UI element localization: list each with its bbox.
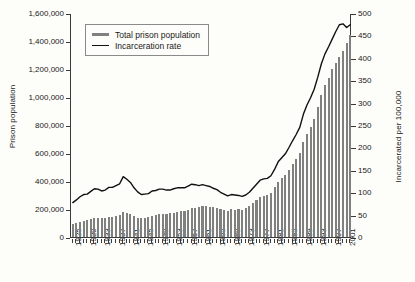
y-axis-left-tick-label: 1,400,000 (8, 38, 64, 46)
y-axis-right-tick-label: 400 (358, 55, 398, 63)
y-axis-left-tick-label: 1,200,000 (8, 66, 64, 74)
legend-swatch-bar-icon (92, 33, 109, 36)
x-axis-tickmark (259, 239, 260, 243)
x-axis-tickmark (173, 239, 174, 243)
x-axis-tickmark (216, 239, 217, 243)
y-axis-left-tick-label: 0 (8, 234, 64, 242)
y-axis-left-tick-label: 400,000 (8, 178, 64, 186)
x-axis-tickmark (288, 239, 289, 243)
legend-item-total-prison-population: Total prison population (92, 29, 200, 40)
chart-legend: Total prison population Incarceration ra… (85, 24, 209, 56)
y-axis-right-tick-label: 500 (358, 10, 398, 18)
chart-figure: Prison population Incarcerated per 100,0… (0, 0, 415, 282)
y-axis-left-tick-label: 800,000 (8, 122, 64, 130)
x-axis-tickmark (86, 239, 87, 243)
x-axis-tickmark (230, 239, 231, 243)
x-axis-tickmark (144, 239, 145, 243)
x-axis-tickmark (346, 239, 347, 243)
y-axis-right-tick-label: 0 (358, 234, 398, 242)
y-axis-right-tick-label: 200 (358, 144, 398, 152)
y-axis-right-tick-label: 450 (358, 32, 398, 40)
y-axis-left-title: Prison population (8, 57, 17, 177)
legend-label-incarceration-rate: Incarceration rate (115, 41, 181, 51)
x-axis-tickmark (115, 239, 116, 243)
x-axis-tickmark (245, 239, 246, 243)
y-axis-left-tick-label: 1,000,000 (8, 94, 64, 102)
x-axis-tickmark (72, 239, 73, 243)
y-axis-right-tick-label: 150 (358, 167, 398, 175)
y-axis-left-tickmark (66, 238, 70, 239)
y-axis-left-tick-label: 1,600,000 (8, 10, 64, 18)
x-axis-tickmark (101, 239, 102, 243)
y-axis-right-tick-label: 350 (358, 77, 398, 85)
y-axis-left-tick-label: 600,000 (8, 150, 64, 158)
y-axis-right-tick-label: 100 (358, 189, 398, 197)
x-axis-tickmark (187, 239, 188, 243)
legend-label-total-prison-population: Total prison population (115, 30, 200, 40)
x-axis-tickmark (302, 239, 303, 243)
x-axis-tickmark (201, 239, 202, 243)
x-axis-tickmark (317, 239, 318, 243)
x-axis-tickmark (129, 239, 130, 243)
y-axis-right-tick-label: 50 (358, 212, 398, 220)
x-axis-tickmark (158, 239, 159, 243)
legend-swatch-line-icon (92, 45, 109, 46)
x-axis-tickmark (274, 239, 275, 243)
legend-item-incarceration-rate: Incarceration rate (92, 40, 200, 51)
x-axis-tickmark (331, 239, 332, 243)
y-axis-left-tick-label: 200,000 (8, 206, 64, 214)
y-axis-right-tick-label: 250 (358, 122, 398, 130)
y-axis-right-tick-label: 300 (358, 100, 398, 108)
y-axis-right-title: Incarcerated per 100,000 (394, 77, 403, 197)
